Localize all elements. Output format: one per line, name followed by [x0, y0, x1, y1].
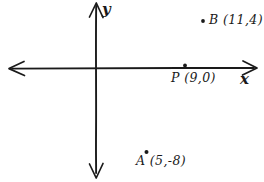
point-label-a: A (5,-8) [136, 155, 186, 168]
point-dot-b [201, 19, 205, 23]
coordinate-plane-sketch: y x B (11,4) P (9,0) A (5,-8) [0, 0, 264, 182]
point-label-p: P (9,0) [171, 72, 216, 85]
axes-drawing [0, 0, 264, 182]
x-axis-group [9, 61, 257, 76]
point-dot-p [183, 64, 187, 68]
point-label-b: B (11,4) [209, 14, 263, 27]
y-axis-group [90, 3, 104, 178]
x-axis-line [12, 68, 254, 69]
y-axis-label: y [102, 2, 111, 17]
x-axis-label: x [240, 72, 249, 87]
